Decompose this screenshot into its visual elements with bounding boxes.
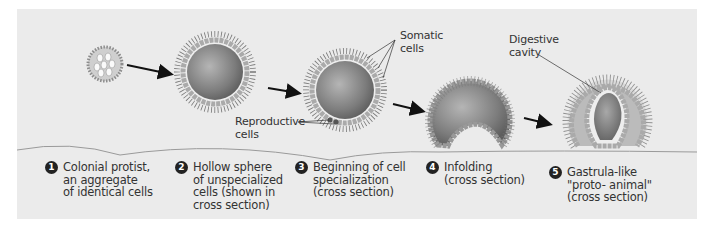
digestive-label-line1: Digestive bbox=[509, 34, 559, 47]
step-text: Colonial protist, an aggregate of identi… bbox=[63, 161, 153, 199]
arrow-3-to-4 bbox=[393, 104, 422, 111]
step-text: Gastrula-like "proto- animal" (cross sec… bbox=[567, 166, 652, 204]
digestive-label-line2: cavity bbox=[509, 47, 559, 60]
colonial-protist-illustration bbox=[88, 47, 122, 81]
step-number-badge: 1 bbox=[45, 161, 58, 174]
reproductive-label-line2: cells bbox=[235, 129, 305, 142]
somatic-cells-label: Somatic cells bbox=[400, 30, 443, 55]
step-number-badge: 3 bbox=[295, 161, 308, 174]
digestive-cavity-label: Digestive cavity bbox=[509, 34, 559, 59]
step-number-badge: 2 bbox=[175, 161, 188, 174]
digestive-cavity-leader bbox=[539, 55, 601, 93]
infolding-illustration bbox=[430, 81, 510, 146]
arrow-4-to-5 bbox=[524, 118, 549, 124]
step-text: Beginning of cell specialization (cross … bbox=[313, 161, 406, 199]
specialization-sphere-illustration bbox=[306, 51, 384, 129]
step-text: Hollow sphere of unspecialized cells (sh… bbox=[193, 161, 283, 211]
arrow-2-to-3 bbox=[268, 88, 298, 93]
hollow-sphere-illustration bbox=[177, 34, 253, 110]
step-number-badge: 5 bbox=[549, 166, 562, 179]
somatic-label-line1: Somatic bbox=[400, 30, 443, 43]
reproductive-cells-label: Reproductive cells bbox=[235, 116, 305, 141]
step-text: Infolding (cross section) bbox=[444, 161, 525, 186]
somatic-label-line2: cells bbox=[400, 43, 443, 56]
gastrula-illustration bbox=[568, 80, 648, 146]
reproductive-label-line1: Reproductive bbox=[235, 116, 305, 129]
arrow-1-to-2 bbox=[127, 65, 170, 74]
step-number-badge: 4 bbox=[426, 161, 439, 174]
